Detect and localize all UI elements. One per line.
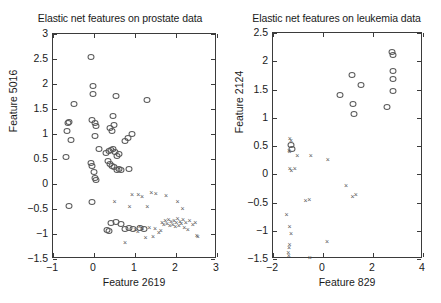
y-tick-mark [417,90,421,91]
data-point-cross [129,192,135,198]
panel-title-leukemia: Elastic net features on leukemia data [230,12,441,24]
data-point-cross [303,198,309,204]
data-point-cross [139,226,145,232]
y-tick-mark [211,159,215,160]
x-axis-label: Feature 2619 [103,276,165,288]
data-point-circle [389,68,396,74]
data-point-circle [112,149,119,155]
data-point-circle [118,167,125,173]
data-point-cross [284,212,290,218]
x-tick-mark [176,34,177,38]
data-point-cross [112,199,118,205]
data-point-cross [285,250,291,256]
y-tick-mark [53,84,57,85]
y-tick-label: −0.5 [224,196,268,208]
data-point-cross [170,222,176,228]
data-point-cross [173,220,179,226]
data-point-cross [162,218,168,224]
data-point-circle [90,83,97,89]
data-point-cross [132,227,138,233]
data-point-circle [87,54,94,60]
data-point-circle [111,164,118,170]
data-point-cross [146,225,152,231]
x-tick-label: −2 [266,261,278,273]
x-tick-label: 2 [172,261,178,273]
data-point-cross [135,229,141,235]
y-tick-mark [273,259,277,260]
data-point-circle [63,154,70,160]
data-point-cross [194,233,200,239]
data-point-cross [178,221,184,227]
x-tick-label: 1 [131,261,137,273]
data-point-cross [159,220,165,226]
data-point-circle [107,125,114,131]
data-point-cross [166,217,172,223]
data-point-cross [180,217,186,223]
y-tick-mark [417,61,421,62]
data-point-cross [161,222,167,228]
y-tick-label: 3 [4,27,48,39]
y-tick-mark [211,59,215,60]
data-point-circle [126,225,133,231]
data-point-circle [66,203,73,209]
data-point-cross [164,221,170,227]
y-axis-label: Feature 2124 [233,47,245,157]
data-point-cross [288,231,294,237]
data-point-circle [129,226,136,232]
x-tick-mark [135,34,136,38]
y-tick-mark [53,259,57,260]
data-point-cross [325,157,331,163]
data-point-circle [115,151,122,157]
x-tick-mark [94,253,95,257]
x-tick-label: 4 [419,261,425,273]
data-point-circle [107,220,114,226]
x-axis-label: Feature 829 [319,276,376,288]
y-tick-mark [53,184,57,185]
data-point-cross [177,219,183,225]
data-point-cross [127,204,133,210]
data-point-circle [116,166,123,172]
data-point-cross [144,204,150,210]
data-point-circle [122,138,129,144]
data-point-circle [93,123,100,129]
data-point-circle [67,137,74,143]
y-tick-mark [211,184,215,185]
data-point-cross [158,228,164,234]
data-point-circle [109,128,116,134]
data-point-circle [64,120,71,126]
data-point-cross [287,166,293,172]
y-tick-mark [273,203,277,204]
data-point-circle [112,93,119,99]
x-tick-mark [273,33,274,37]
data-point-cross [167,223,173,229]
data-point-cross [286,245,292,251]
y-tick-mark [273,61,277,62]
data-point-cross [163,193,169,199]
y-tick-label: 1.5 [224,83,268,95]
data-point-circle [104,158,111,164]
y-tick-label: 0.5 [224,139,268,151]
x-tick-mark [423,33,424,37]
y-tick-mark [417,259,421,260]
data-point-circle [112,219,119,225]
x-tick-mark [53,253,54,257]
data-point-circle [125,166,132,172]
x-tick-mark [53,34,54,38]
data-point-cross [324,239,330,245]
data-point-circle [389,52,396,58]
data-point-cross [137,224,143,230]
data-point-circle [349,101,356,107]
x-tick-mark [373,33,374,37]
data-point-circle [106,161,113,167]
data-point-circle [105,148,112,154]
x-tick-label: 2 [369,261,375,273]
data-point-circle [109,113,116,119]
data-point-circle [92,177,99,183]
data-point-circle [137,225,144,231]
panel-title-prostate: Elastic net features on prostate data [6,12,234,24]
data-point-cross [308,153,314,159]
y-tick-mark [273,90,277,91]
data-point-cross [350,194,356,200]
data-point-cross [168,219,174,225]
panel-leukemia: Elastic net features on leukemia data −1… [228,0,441,303]
